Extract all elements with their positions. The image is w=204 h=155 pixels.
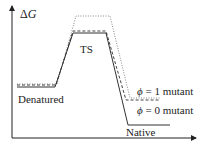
legend-phi0-text: = 0 mutant (143, 104, 194, 116)
energy-diagram-canvas (0, 0, 204, 155)
legend-phi0: ϕ = 0 mutant (137, 105, 193, 116)
legend-phi1: ϕ = 1 mutant (137, 86, 193, 97)
ts-label: TS (80, 44, 93, 55)
denatured-label: Denatured (18, 94, 64, 105)
delta-symbol: Δ (20, 7, 28, 21)
legend-phi1-text: = 1 mutant (143, 85, 194, 97)
g-symbol: G (28, 7, 37, 21)
native-label: Native (126, 127, 155, 138)
y-axis-label: ΔG (20, 8, 36, 20)
